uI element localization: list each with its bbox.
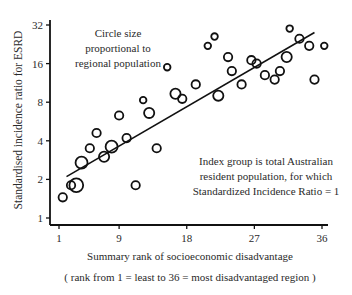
- data-point: [310, 75, 318, 83]
- data-point: [321, 43, 328, 50]
- data-point: [213, 91, 223, 101]
- data-point: [211, 33, 218, 40]
- circle-size-note: Circle size: [95, 27, 142, 39]
- data-point: [178, 95, 186, 103]
- y-tick-label: 32: [32, 19, 43, 31]
- data-point: [261, 71, 269, 79]
- data-point: [76, 157, 88, 169]
- data-point: [204, 43, 211, 50]
- data-point: [131, 181, 139, 189]
- index-group-note: Index group is total Australian: [199, 155, 333, 167]
- x-axis-note: ( rank from 1 = least to 36 = most disad…: [64, 271, 316, 284]
- y-tick-label: 4: [38, 135, 44, 147]
- index-group-note: resident population, for which: [200, 170, 333, 182]
- data-point: [282, 52, 292, 62]
- x-tick-label: 36: [317, 232, 329, 244]
- data-point: [86, 144, 94, 152]
- data-point: [144, 108, 154, 118]
- data-point: [140, 97, 147, 104]
- data-point: [270, 75, 278, 83]
- data-point: [69, 178, 83, 192]
- data-point: [152, 144, 160, 152]
- x-tick-label: 9: [116, 232, 122, 244]
- y-tick-label: 8: [38, 96, 44, 108]
- data-point: [228, 67, 236, 75]
- data-point: [286, 25, 293, 32]
- circle-size-note: regional population: [75, 57, 161, 69]
- data-point: [164, 64, 171, 71]
- data-point: [115, 111, 123, 119]
- data-point: [192, 80, 200, 88]
- annotations: Circle sizeproportional toregional popul…: [75, 27, 339, 197]
- data-point: [276, 67, 284, 75]
- circle-size-note: proportional to: [85, 42, 151, 54]
- index-group-note: Standardized Incidence Ratio = 1: [193, 185, 340, 197]
- data-point: [224, 53, 232, 61]
- x-tick-label: 1: [56, 232, 62, 244]
- x-axis-title: Summary rank of socioeconomic disadvanta…: [87, 250, 293, 262]
- x-tick-label: 18: [181, 232, 193, 244]
- x-tick-label: 27: [249, 232, 261, 244]
- data-point: [305, 42, 313, 50]
- y-axis-title: Standardised incidence ratio for ESRD: [12, 31, 24, 210]
- y-tick-label: 1: [38, 212, 44, 224]
- y-tick-label: 16: [32, 58, 44, 70]
- data-point: [237, 80, 245, 88]
- y-tick-label: 2: [38, 173, 44, 185]
- data-point: [92, 129, 100, 137]
- scatter-chart: 1248163219182736 Summary rank of socioec…: [0, 0, 352, 295]
- data-point: [59, 193, 67, 201]
